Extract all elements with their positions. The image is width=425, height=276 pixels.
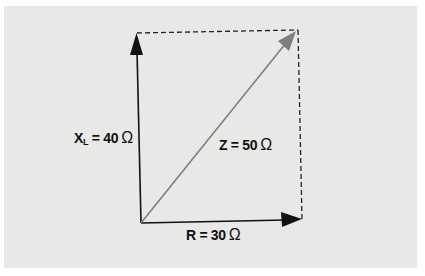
ohm-symbol: Ω [121, 129, 133, 146]
xl-arrow [130, 33, 143, 223]
r-arrow [141, 212, 302, 227]
xl-value: = 40 [92, 130, 118, 146]
dashed-right-line [298, 30, 302, 219]
z-arrow [141, 31, 296, 223]
r-value: R = 30 [186, 227, 226, 243]
ohm-symbol: Ω [229, 226, 241, 243]
xl-subscript: L [83, 137, 88, 147]
dashed-top-line [137, 30, 298, 33]
z-value: Z = 50 [219, 137, 257, 153]
xl-label: XL = 40Ω [74, 129, 133, 147]
ohm-symbol: Ω [260, 136, 272, 153]
z-label: Z = 50Ω [219, 136, 272, 154]
xl-symbol: X [74, 130, 83, 146]
r-label: R = 30Ω [186, 226, 241, 244]
